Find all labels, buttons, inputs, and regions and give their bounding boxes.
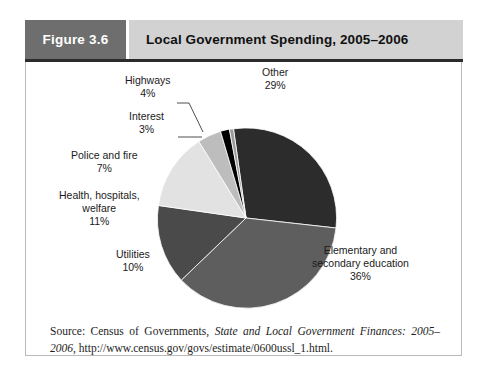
pie-label-other-name: Other: [262, 66, 288, 79]
figure-title: Local Government Spending, 2005–2006: [146, 32, 408, 47]
pie-label-health-pct: 11%: [59, 215, 140, 228]
pie-label-health-line2: welfare: [59, 202, 140, 215]
source-suffix: , http://www.census.gov/govs/estimate/06…: [73, 342, 333, 354]
pie-label-other: Other 29%: [262, 66, 288, 92]
pie-label-other-pct: 29%: [262, 79, 288, 92]
pie-label-highways: Highways 4%: [125, 74, 171, 100]
pie-label-education-pct: 36%: [312, 270, 409, 283]
label-leader-lines: [177, 103, 203, 137]
pie-label-education-line1: Elementary and: [312, 244, 409, 257]
pie-label-health: Health, hospitals, welfare 11%: [59, 189, 140, 227]
pie-label-interest-pct: 3%: [129, 123, 164, 136]
source-note: Source: Census of Governments, State and…: [50, 323, 440, 358]
pie-label-education-line2: secondary education: [312, 257, 409, 270]
pie-label-police: Police and fire 7%: [71, 149, 138, 175]
source-prefix: Source: Census of Governments,: [50, 325, 215, 337]
pie-label-utilities-pct: 10%: [116, 261, 150, 274]
pie-label-education: Elementary and secondary education 36%: [312, 244, 409, 282]
pie-label-health-line1: Health, hospitals,: [59, 189, 140, 202]
pie-label-highways-name: Highways: [125, 74, 171, 87]
pie-chart-area: Other 29% Highways 4% Interest 3% Police…: [26, 63, 461, 315]
figure-header: Figure 3.6 Local Government Spending, 20…: [25, 20, 463, 62]
figure-title-bar: Local Government Spending, 2005–2006: [129, 20, 463, 59]
pie-label-utilities: Utilities 10%: [116, 248, 150, 274]
pie-label-utilities-name: Utilities: [116, 248, 150, 261]
pie-slices: [157, 128, 336, 308]
pie-label-police-name: Police and fire: [71, 149, 138, 162]
figure-number-tag: Figure 3.6: [25, 20, 129, 59]
leader-line-highways: [177, 103, 203, 132]
pie-label-interest: Interest 3%: [129, 110, 164, 136]
pie-slice-other[interactable]: [233, 128, 336, 228]
pie-label-interest-name: Interest: [129, 110, 164, 123]
figure-container: Figure 3.6 Local Government Spending, 20…: [25, 20, 462, 356]
pie-label-highways-pct: 4%: [125, 87, 171, 100]
pie-label-police-pct: 7%: [71, 162, 138, 175]
